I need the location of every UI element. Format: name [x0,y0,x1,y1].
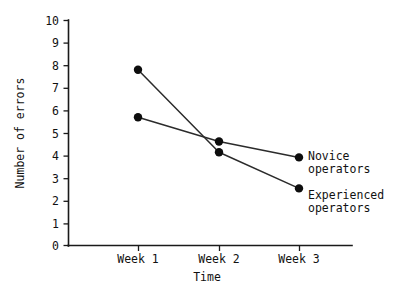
annotation-experienced-line-2: operators [308,201,370,215]
series-line-experienced [138,70,299,189]
x-axis-title: Time [193,270,221,284]
x-tick-label-week-1: Week 1 [117,252,159,266]
y-tick-label-2: 2 [52,194,59,208]
data-point-novice-week-3 [295,153,303,161]
x-tick-label-week-2: Week 2 [198,252,240,266]
annotation-novice-line-1: Novice [308,149,350,163]
data-point-experienced-week-3 [295,184,303,192]
data-point-experienced-week-2 [215,148,223,156]
line-chart: 10 9 8 7 6 5 4 3 2 1 0 Week 1 Week 2 Wee… [0,0,404,294]
y-axis-title: Number of errors [13,78,27,189]
y-tick-label-9: 9 [52,36,59,50]
y-tick-label-10: 10 [45,14,59,28]
y-tick-label-5: 5 [52,127,59,141]
annotation-novice-line-2: operators [308,162,370,176]
x-tick-label-week-3: Week 3 [278,252,320,266]
data-point-experienced-week-1 [134,66,142,74]
data-point-novice-week-2 [215,137,223,145]
y-tick-label-1: 1 [52,217,59,231]
y-tick-label-7: 7 [52,81,59,95]
y-tick-label-6: 6 [52,104,59,118]
chart-figure: 10 9 8 7 6 5 4 3 2 1 0 Week 1 Week 2 Wee… [0,0,404,294]
y-tick-label-3: 3 [52,172,59,186]
y-tick-label-0: 0 [52,239,59,253]
annotation-experienced-line-1: Experienced [308,188,384,202]
y-tick-label-4: 4 [52,149,59,163]
y-tick-label-8: 8 [52,59,59,73]
data-point-novice-week-1 [134,113,142,121]
